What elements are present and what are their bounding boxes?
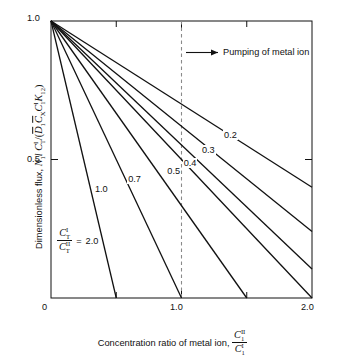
curve-label-0.3: 0.3 — [201, 145, 216, 155]
legend-den-symbol: C — [59, 242, 66, 253]
legend-fraction: CIT CIIT — [57, 227, 72, 255]
y-paren-close: ) — [33, 85, 44, 88]
y-sym-K: K — [33, 95, 44, 102]
x-axis-ratio: CII1CI1 — [232, 329, 247, 357]
y-tick-label-1.0: 1.0 — [27, 13, 40, 23]
pumping-arrow-icon — [186, 50, 218, 56]
x-num-symbol: C — [234, 329, 241, 340]
curve-label-0.2: 0.2 — [223, 130, 238, 140]
legend-den-scripts: IIT — [66, 241, 70, 254]
y-sym-C1-scripts: I1 — [33, 101, 46, 104]
y-sym-C-scripts: IT — [33, 140, 46, 144]
curve-label-1.0: 1.0 — [94, 184, 109, 194]
y-sym-Cx-sub: X — [39, 112, 46, 117]
y-axis-title: Dimensionless flux, N1l CIT/(D1CXCI1K12) — [33, 27, 47, 307]
x-axis-title: Concentration ratio of metal ion, CII1CI… — [0, 330, 345, 358]
y-sym-Cx: C — [32, 116, 44, 123]
legend-denominator: CIIT — [57, 241, 72, 254]
y-sym-C: C — [33, 144, 44, 151]
legend-num-symbol: C — [59, 227, 66, 238]
legend-den-sub: T — [66, 248, 70, 255]
legend-num-sub: T — [66, 234, 70, 241]
y-sym-N-sub: 1 — [39, 156, 46, 159]
y-sym-C1: C — [33, 105, 44, 112]
x-num-sub: 1 — [241, 336, 245, 343]
pumping-annotation-label: Pumping of metal ion — [223, 48, 309, 57]
y-sym-D-sub: 1 — [39, 123, 46, 126]
curve-label-0.5: 0.5 — [166, 166, 181, 176]
y-sym-K-sub: 12 — [39, 88, 46, 95]
x-axis-ratio-num: CII1 — [232, 329, 247, 343]
curve-label-0.7: 0.7 — [127, 174, 142, 184]
x-tick-label-1: 1.0 — [170, 302, 183, 312]
x-den-symbol: C — [235, 344, 242, 355]
x-axis-title-text: Concentration ratio of metal ion, — [98, 338, 232, 348]
curve-2.0 — [51, 21, 116, 298]
x-num-scripts: II1 — [241, 329, 245, 342]
curve-0.7 — [51, 21, 247, 298]
x-den-sub: 1 — [241, 350, 244, 357]
y-paren-open: ( — [33, 134, 44, 137]
legend-num-scripts: IT — [66, 227, 70, 240]
y-sym-N: N — [33, 160, 44, 167]
x-den-scripts: I1 — [241, 343, 244, 356]
y-sym-C1-sub: 1 — [40, 101, 47, 104]
legend-equals: = — [72, 236, 81, 246]
legend-value: 2.0 — [82, 236, 99, 246]
y-sym-C-sub: T — [40, 140, 47, 144]
y-sym-l: l — [33, 153, 44, 156]
x-axis-ratio-den: CI1 — [232, 343, 247, 356]
y-sym-D: D — [32, 126, 44, 133]
y-axis-title-prefix: Dimensionless flux, — [34, 166, 44, 249]
curve-label-0.4: 0.4 — [183, 158, 198, 168]
legend-ratio: CIT CIIT =2.0 — [57, 228, 98, 256]
x-tick-label-2: 2.0 — [301, 302, 314, 312]
